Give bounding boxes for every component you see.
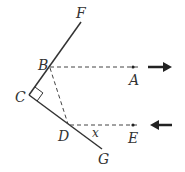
label-a: A <box>127 72 139 88</box>
label-c: C <box>15 89 26 105</box>
label-e: E <box>127 130 138 146</box>
label-g: G <box>98 151 109 167</box>
ray-bd-dashed <box>50 68 68 124</box>
label-d: D <box>57 128 69 144</box>
reflection-diagram: F B C D G A E x <box>0 0 185 172</box>
point-e-dot <box>131 123 134 126</box>
label-b: B <box>37 57 48 73</box>
point-a-dot <box>131 65 134 68</box>
right-angle-marker <box>35 87 43 101</box>
arrow-left-icon <box>150 120 172 130</box>
label-f: F <box>75 5 87 21</box>
arrow-right-icon <box>148 62 172 72</box>
angle-label-x: x <box>92 126 99 140</box>
